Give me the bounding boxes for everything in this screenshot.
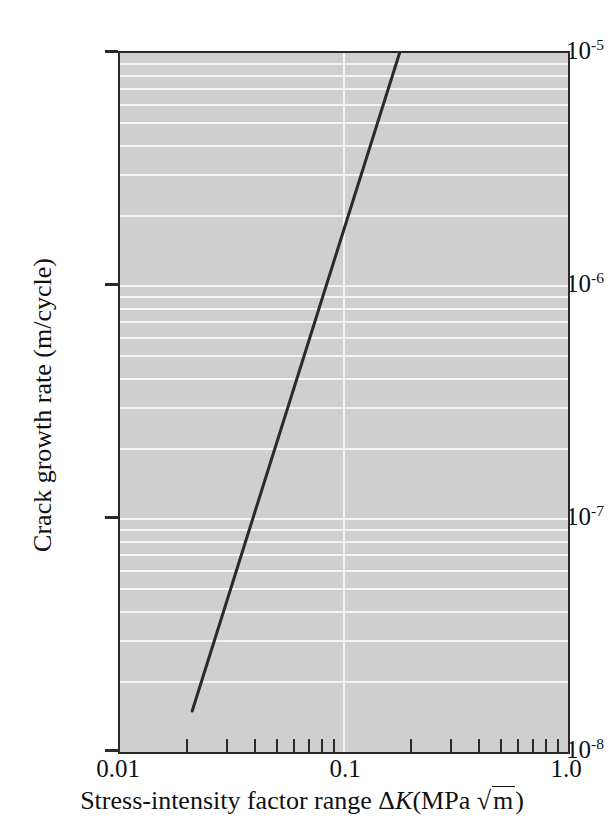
x-axis-unit-open: (MPa xyxy=(412,786,476,815)
y-tick-exponent: -7 xyxy=(591,502,604,519)
y-axis-title: Crack growth rate (m/cycle) xyxy=(28,195,58,615)
sqrt-icon: √ xyxy=(477,786,491,815)
y-tick-exponent: -5 xyxy=(591,36,604,53)
x-axis-title-prefix: Stress-intensity factor range xyxy=(80,786,378,815)
x-axis-k-symbol: K xyxy=(395,786,412,815)
x-axis-unit-meter: m xyxy=(492,786,515,814)
plot-area xyxy=(118,51,570,754)
y-axis-tick-1e-8 xyxy=(105,749,118,752)
data-series-line xyxy=(120,53,568,752)
x-tick-label-0.01: 0.01 xyxy=(68,756,168,781)
x-tick-label-1.0: 1.0 xyxy=(516,756,609,781)
x-axis-unit-close: ) xyxy=(515,786,524,815)
x-axis-title: Stress-intensity factor range ΔK(MPa √m) xyxy=(0,786,604,816)
y-tick-exponent: -6 xyxy=(591,269,604,286)
series-polyline xyxy=(192,53,399,711)
y-axis-tick-1e-6 xyxy=(105,283,118,286)
x-axis-delta-symbol: Δ xyxy=(378,786,395,815)
y-axis-tick-1e-5 xyxy=(105,50,118,53)
y-axis-title-text: Crack growth rate (m/cycle) xyxy=(28,258,57,552)
plot-inner xyxy=(120,53,568,752)
x-tick-label-0.1: 0.1 xyxy=(295,756,395,781)
y-axis-tick-1e-7 xyxy=(105,516,118,519)
y-tick-exponent: -8 xyxy=(591,735,604,752)
